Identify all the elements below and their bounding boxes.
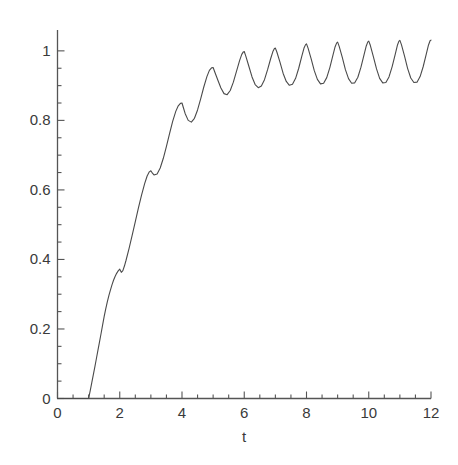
x-tick-label: 8: [302, 404, 310, 421]
plot-canvas: 00.20.40.60.81 024681012 t: [0, 0, 458, 465]
y-tick-label: 0.6: [30, 181, 51, 198]
x-tick-label: 12: [423, 404, 440, 421]
y-tick-label: 0.8: [30, 111, 51, 128]
x-tick-label: 2: [116, 404, 124, 421]
y-tick-label: 0.2: [30, 320, 51, 337]
x-tick-label: 6: [240, 404, 248, 421]
x-tick-label: 0: [53, 404, 61, 421]
y-tick-label: 0.4: [30, 250, 51, 267]
x-tick-label: 10: [360, 404, 377, 421]
x-tick-label: 4: [178, 404, 186, 421]
plot-figure: 00.20.40.60.81 024681012 t: [0, 0, 458, 465]
y-tick-label: 0: [42, 390, 50, 407]
y-tick-label: 1: [42, 42, 50, 59]
